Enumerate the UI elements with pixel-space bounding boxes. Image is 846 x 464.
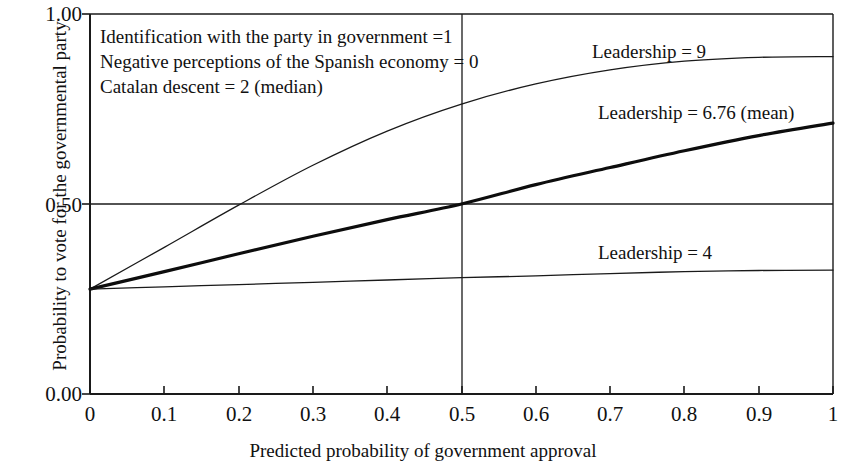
x-tick-label-0.4: 0.4: [357, 404, 417, 425]
x-tick-label-0.5: 0.5: [432, 404, 492, 425]
x-tick-label-0.3: 0.3: [283, 404, 343, 425]
y-tick-marks: [82, 14, 90, 394]
series-label-leadership-4: Leadership = 4: [598, 243, 712, 262]
x-tick-label-0.2: 0.2: [209, 404, 269, 425]
annotation-line-3: Catalan descent = 2 (median): [100, 76, 478, 98]
x-tick-label-0.7: 0.7: [580, 404, 640, 425]
series-label-leadership-6.76: Leadership = 6.76 (mean): [598, 103, 794, 122]
x-axis-title: Predicted probability of government appr…: [0, 440, 846, 462]
x-tick-label-0.6: 0.6: [506, 404, 566, 425]
annotation-block: Identification with the party in governm…: [100, 26, 478, 101]
series-label-leadership-9: Leadership = 9: [592, 42, 706, 61]
annotation-line-1: Identification with the party in governm…: [100, 26, 478, 48]
x-tick-label-0.9: 0.9: [729, 404, 789, 425]
x-tick-label-1: 1: [803, 404, 846, 425]
y-axis-title: Probability to vote for the governmental…: [49, 0, 71, 406]
x-tick-label-0.8: 0.8: [654, 404, 714, 425]
x-tick-label-0.1: 0.1: [134, 404, 194, 425]
annotation-line-2: Negative perceptions of the Spanish econ…: [100, 51, 478, 73]
chart-figure: 1.00 0.50 0.00 0 0.1 0.2 0.3 0.4 0.5 0.6…: [0, 0, 846, 464]
x-tick-label-0: 0: [60, 404, 120, 425]
